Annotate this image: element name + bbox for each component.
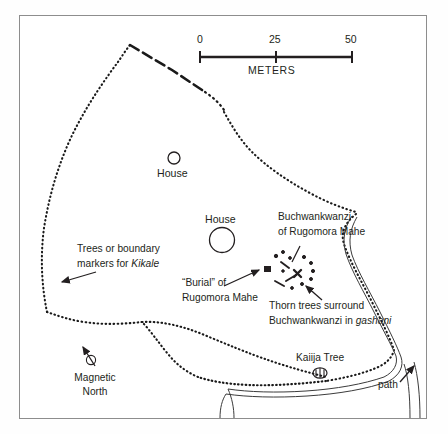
thorn-trees-label-line2: Buchwankwanzi in gashani (269, 315, 391, 327)
compass-label-line2: North (60, 386, 130, 398)
burial-label-line1: “Burial” of (182, 277, 226, 289)
trees-label-prefix: markers for (77, 258, 131, 269)
house-label-upper: House (157, 167, 188, 180)
scale-tick-25: 25 (269, 33, 281, 45)
kaiija-tree-label: Kaiija Tree (296, 352, 344, 364)
buchwankwanzi-label-line1: Buchwankwanzi (278, 211, 351, 223)
buchwankwanzi-label-line2: of Rugomora Mahe (278, 226, 365, 238)
path-label: path (378, 379, 398, 391)
trees-boundary-label-line1: Trees or boundary (77, 243, 160, 255)
trees-boundary-label-line2: markers for Kikale (77, 258, 159, 270)
kikale-term: Kikale (131, 258, 159, 269)
house-label-lower: House (205, 213, 236, 226)
thorn-label-prefix: Buchwankwanzi in (269, 315, 356, 326)
map-figure: 0 25 50 METERS House House Buchwankwanzi… (0, 0, 448, 434)
scale-unit-label: METERS (248, 64, 295, 76)
scale-tick-0: 0 (197, 33, 203, 45)
scale-tick-50: 50 (345, 33, 357, 45)
gashani-term: gashani (356, 315, 392, 326)
compass-label-line1: Magnetic (60, 372, 130, 384)
thorn-trees-label-line1: Thorn trees surround (269, 300, 364, 312)
burial-label-line2: Rugomora Mahe (182, 292, 258, 304)
